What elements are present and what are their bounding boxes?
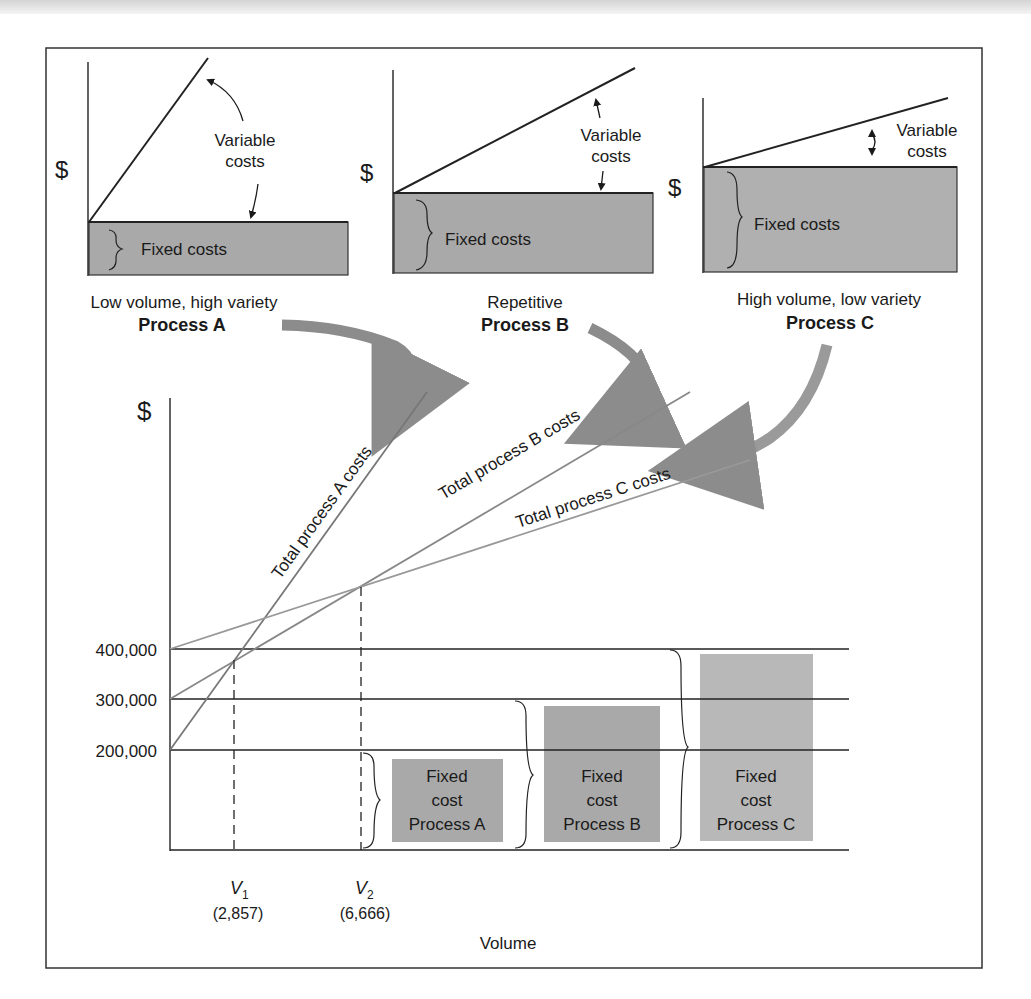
fixed-box-c-line2: cost bbox=[740, 791, 771, 810]
caption: Low volume, high variety bbox=[90, 293, 278, 312]
variable-cost-line bbox=[89, 58, 208, 222]
small-chart-process-b: $ Variable costs Fixed costs Repetitive … bbox=[360, 68, 653, 335]
variable-costs-label-2: costs bbox=[225, 152, 265, 171]
arrow-icon bbox=[596, 100, 600, 118]
y-tick-300000: 300,000 bbox=[96, 691, 157, 710]
small-chart-process-a: $ Variable costs Fixed costs Low volume,… bbox=[55, 58, 348, 335]
brace-b-icon bbox=[515, 701, 533, 848]
main-crossover-chart: $ 400,000 300,000 200,000 Total process … bbox=[96, 392, 849, 953]
fixed-box-b-line1: Fixed bbox=[581, 767, 623, 786]
brace-c-icon bbox=[670, 650, 688, 848]
fixed-box-b-line2: cost bbox=[586, 791, 617, 810]
process-title: Process B bbox=[481, 315, 569, 335]
fixed-box-a-line3: Process A bbox=[409, 815, 486, 834]
fixed-costs-label: Fixed costs bbox=[141, 240, 227, 259]
y-tick-400000: 400,000 bbox=[96, 641, 157, 660]
dollar-sign: $ bbox=[668, 174, 681, 201]
arrow-icon bbox=[208, 80, 243, 121]
line-label-c: Total process C costs bbox=[513, 464, 673, 532]
line-label-b: Total process B costs bbox=[435, 405, 583, 503]
arrow-icon bbox=[251, 184, 258, 217]
v1-label: V1 bbox=[230, 878, 249, 902]
variable-costs-label-2: costs bbox=[907, 142, 947, 161]
arrow-down-icon bbox=[868, 148, 876, 156]
v2-value: (6,666) bbox=[340, 905, 391, 922]
main-dollar-sign: $ bbox=[137, 396, 152, 426]
x-axis-label: Volume bbox=[480, 934, 537, 953]
fixed-box-c-line3: Process C bbox=[717, 815, 795, 834]
dollar-sign: $ bbox=[55, 156, 68, 183]
process-b-arrow-icon bbox=[590, 328, 652, 412]
fixed-box-a-line1: Fixed bbox=[426, 767, 468, 786]
fixed-costs-label: Fixed costs bbox=[445, 230, 531, 249]
fixed-costs-label: Fixed costs bbox=[754, 215, 840, 234]
total-cost-line-b bbox=[170, 392, 690, 699]
caption: Repetitive bbox=[487, 293, 563, 312]
caption: High volume, low variety bbox=[737, 290, 922, 309]
fixed-cost-box-c bbox=[700, 654, 813, 841]
arrow-icon bbox=[601, 171, 603, 189]
process-cost-diagram: $ Variable costs Fixed costs Low volume,… bbox=[0, 0, 1031, 999]
brace-a-icon bbox=[363, 753, 380, 848]
process-title: Process C bbox=[786, 313, 874, 333]
v2-label: V2 bbox=[355, 878, 374, 902]
fixed-box-a-line2: cost bbox=[431, 791, 462, 810]
line-label-a: Total process A costs bbox=[268, 442, 376, 582]
process-c-arrow-icon bbox=[724, 345, 827, 460]
small-chart-process-c: $ Variable costs Fixed costs High volume… bbox=[668, 98, 958, 333]
process-a-arrow-icon bbox=[282, 325, 411, 388]
fixed-box-c-line1: Fixed bbox=[735, 767, 777, 786]
variable-costs-label-1: Variable bbox=[214, 131, 275, 150]
dollar-sign: $ bbox=[360, 159, 373, 186]
arrow-up-icon bbox=[868, 129, 876, 137]
variable-costs-label-2: costs bbox=[591, 147, 631, 166]
v1-value: (2,857) bbox=[213, 905, 264, 922]
process-title: Process A bbox=[138, 315, 225, 335]
variable-costs-label-1: Variable bbox=[896, 121, 957, 140]
variable-costs-label-1: Variable bbox=[580, 126, 641, 145]
y-tick-200000: 200,000 bbox=[96, 742, 157, 761]
fixed-box-b-line3: Process B bbox=[563, 815, 640, 834]
